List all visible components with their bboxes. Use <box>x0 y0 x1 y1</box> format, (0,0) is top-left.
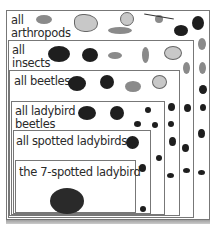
spotted-ladybird-icon <box>198 129 205 138</box>
cricket-icon <box>108 27 132 34</box>
label-beetles: all beetles <box>14 75 70 88</box>
ladybird-icon <box>184 104 191 112</box>
ladybird-icon <box>134 121 141 127</box>
spotted-ladybird-icon <box>156 155 162 161</box>
spotted-ladybird-icon <box>183 168 190 173</box>
7-spotted-ladybird-icon <box>139 164 146 172</box>
spotted-ladybird-icon <box>182 144 189 152</box>
spotted-ladybird-icon <box>126 136 139 149</box>
label-spotted-ladybirds: all spotted ladybirds <box>16 135 127 148</box>
beetle-icon <box>48 46 70 62</box>
spotted-ladybird-icon <box>198 170 205 175</box>
ladybird-icon <box>100 75 114 89</box>
7-spotted-ladybird-icon <box>50 188 84 214</box>
label-ladybird-beetles: all ladybird beetles <box>15 105 75 131</box>
fly-icon <box>199 62 206 74</box>
spotted-ladybird-icon <box>169 137 176 146</box>
ladybird-icon <box>168 121 174 127</box>
spotted-ladybird-icon <box>167 173 174 178</box>
label-7-spotted-ladybird: the 7-spotted ladybird <box>19 166 140 179</box>
shrimp-icon <box>74 14 98 32</box>
ladybird-icon <box>82 48 98 62</box>
ladybird-icon <box>152 122 158 128</box>
beetle-icon <box>183 62 190 74</box>
beetle-icon <box>174 25 188 36</box>
wasp-icon <box>108 52 122 59</box>
beetle-icon <box>36 15 52 24</box>
fly-icon <box>198 38 206 50</box>
beetle-icon <box>192 16 204 30</box>
label-insects: all insects <box>12 44 50 70</box>
ladybird-icon <box>145 107 151 113</box>
ladybird-icon <box>110 106 124 120</box>
beetle-icon <box>68 76 86 91</box>
ladybird-icon <box>200 104 206 111</box>
beetle-icon <box>120 12 134 26</box>
beetle-icon <box>164 46 182 60</box>
ladybird-icon <box>168 103 175 111</box>
beetle-icon <box>125 81 141 92</box>
fly-icon <box>142 47 149 63</box>
beetle-icon <box>152 75 167 89</box>
ladybird-icon <box>78 106 96 120</box>
beetle-icon <box>199 85 207 94</box>
7-spotted-ladybird-icon <box>140 206 146 212</box>
